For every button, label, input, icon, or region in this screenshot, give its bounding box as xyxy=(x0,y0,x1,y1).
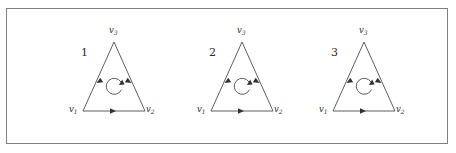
vertex-sub-v3: 3 xyxy=(364,29,368,36)
orientation-loop-1 xyxy=(106,78,124,94)
triangle-edges-3 xyxy=(333,42,395,111)
orientation-loop-3 xyxy=(356,78,374,94)
vertex-label-v3: v3 xyxy=(359,26,368,35)
right-edge xyxy=(364,42,395,111)
figure-frame: 1 v1 v2 v3 xyxy=(6,8,448,144)
triangle-edges-1 xyxy=(83,42,145,111)
vertex-sub-v2: 2 xyxy=(401,108,405,115)
bottom-edge-arrowhead xyxy=(238,108,244,113)
bottom-edge-arrowhead xyxy=(110,108,116,113)
triangle-edges-2 xyxy=(211,42,273,111)
edge-arrowheads-1 xyxy=(97,78,132,114)
panel-number-2: 2 xyxy=(209,47,216,58)
vertex-label-v1: v1 xyxy=(319,105,328,114)
vertex-sub-v2: 2 xyxy=(279,108,283,115)
vertex-label-v2: v2 xyxy=(396,105,405,114)
vertex-label-v3: v3 xyxy=(237,26,246,35)
vertex-sub-v2: 2 xyxy=(151,108,155,115)
vertex-label-v2: v2 xyxy=(146,105,155,114)
triangle-panel-3: 3 v1 v2 v3 xyxy=(317,9,456,145)
vertex-label-v1: v1 xyxy=(69,105,78,114)
bottom-edge-arrowhead xyxy=(360,108,366,113)
orientation-loop-arc xyxy=(234,78,249,94)
panel-number-1: 1 xyxy=(81,47,88,58)
triangle-diagram-3 xyxy=(317,9,456,145)
vertex-label-v3: v3 xyxy=(109,26,118,35)
vertex-sub-v1: 1 xyxy=(324,108,328,115)
right-edge xyxy=(114,42,145,111)
vertex-sub-v1: 1 xyxy=(202,108,206,115)
triangle-diagram-2 xyxy=(195,9,335,145)
vertex-sub-v1: 1 xyxy=(74,108,78,115)
triangle-panel-2: 2 v1 v2 v3 xyxy=(195,9,335,145)
figure-root: 1 v1 v2 v3 xyxy=(0,0,456,153)
edge-arrowheads-2 xyxy=(225,78,260,114)
vertex-label-v1: v1 xyxy=(197,105,206,114)
vertex-sub-v3: 3 xyxy=(114,29,118,36)
vertex-sub-v3: 3 xyxy=(242,29,246,36)
vertex-label-v2: v2 xyxy=(274,105,283,114)
orientation-loop-arc xyxy=(356,78,371,94)
orientation-loop-2 xyxy=(234,78,252,94)
triangle-diagram-1 xyxy=(67,9,207,145)
edge-arrowheads-3 xyxy=(347,78,382,114)
orientation-loop-arc xyxy=(106,78,121,94)
right-edge xyxy=(242,42,273,111)
triangle-panel-1: 1 v1 v2 v3 xyxy=(67,9,207,145)
panel-number-3: 3 xyxy=(331,47,338,58)
